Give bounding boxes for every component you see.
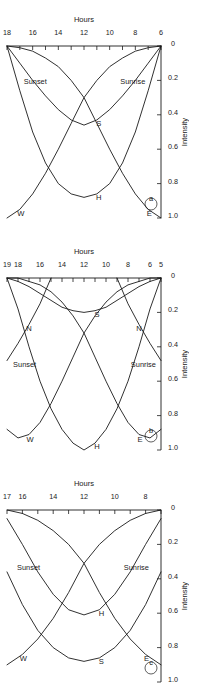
x-tick-label: 12 xyxy=(80,260,88,269)
x-tick-label: 8 xyxy=(133,28,137,37)
y-tick-label: 0.4 xyxy=(168,572,178,581)
annotation-sunrise: Sunrise xyxy=(131,360,156,369)
x-tick-label: 16 xyxy=(18,492,26,501)
x-tick-label: 10 xyxy=(106,28,114,37)
curve-label-S: S xyxy=(99,657,104,666)
annotation-sunset: Sunset xyxy=(13,360,36,369)
x-tick-label: 6 xyxy=(159,28,163,37)
y-tick-label: 0.2 xyxy=(168,73,178,82)
annotation-sunset: Sunset xyxy=(24,77,47,86)
axis-lines xyxy=(7,510,161,682)
panel-label-b: b xyxy=(149,426,153,435)
panel-label-a: a xyxy=(149,194,154,203)
y-tick-label: 1.0 xyxy=(168,675,178,684)
x-axis-title: Hours xyxy=(74,15,94,24)
annotation-sunset: Sunset xyxy=(17,563,40,572)
figure-root: 8101214161700.20.40.60.81.0HoursIntensit… xyxy=(0,0,207,696)
y-axis-title: Intensity xyxy=(180,582,189,610)
curve-label-H: H xyxy=(96,193,101,202)
curve-label-E: E xyxy=(147,209,152,218)
y-tick-label: 0.8 xyxy=(168,641,178,650)
curve-label-E: E xyxy=(137,435,142,444)
chart-panel-c: 8101214161700.20.40.60.81.0HoursIntensit… xyxy=(0,464,207,696)
curve-label-W: W xyxy=(17,209,25,218)
y-tick-label: 0 xyxy=(171,39,175,48)
x-tick-label: 17 xyxy=(3,492,11,501)
curve-label-N: N xyxy=(26,324,31,333)
y-tick-label: 1.0 xyxy=(168,443,178,452)
y-tick-label: 0.8 xyxy=(168,409,178,418)
y-axis-title: Intensity xyxy=(180,118,189,146)
x-tick-label: 12 xyxy=(80,28,88,37)
curve-H xyxy=(7,46,161,197)
y-tick-label: 0.4 xyxy=(168,340,178,349)
chart-panel-b: 56810121416181900.20.40.60.81.0HoursInte… xyxy=(0,232,207,464)
panel-label-c: c xyxy=(149,658,153,667)
x-tick-label: 16 xyxy=(29,28,37,37)
curve-label-W: W xyxy=(26,435,34,444)
curve-E xyxy=(7,510,161,665)
y-tick-label: 0.6 xyxy=(168,606,178,615)
curve-label-N: N xyxy=(136,324,141,333)
x-tick-label: 8 xyxy=(126,260,130,269)
annotation-sunrise: Sunrise xyxy=(124,563,149,572)
y-tick-label: 0.6 xyxy=(168,142,178,151)
curve-label-W: W xyxy=(20,654,28,663)
x-tick-label: 10 xyxy=(102,260,110,269)
x-tick-label: 18 xyxy=(14,260,22,269)
y-axis-title: Intensity xyxy=(180,350,189,378)
three-panel-figure: 8101214161700.20.40.60.81.0HoursIntensit… xyxy=(0,0,207,696)
y-tick-label: 0 xyxy=(171,271,175,280)
x-tick-label: 19 xyxy=(3,260,11,269)
y-tick-label: 0.8 xyxy=(168,177,178,186)
curve-label-S: S xyxy=(94,310,99,319)
x-tick-label: 14 xyxy=(49,492,57,501)
y-tick-label: 1.0 xyxy=(168,211,178,220)
y-tick-label: 0.2 xyxy=(168,305,178,314)
curve-S xyxy=(7,572,161,661)
y-tick-label: 0.4 xyxy=(168,108,178,117)
curve-S xyxy=(7,278,161,312)
x-tick-label: 14 xyxy=(58,260,66,269)
x-tick-label: 6 xyxy=(148,260,152,269)
axis-lines xyxy=(7,46,161,218)
y-tick-label: 0 xyxy=(171,503,175,512)
curve-E xyxy=(7,278,161,438)
curve-W xyxy=(7,278,161,438)
curve-E xyxy=(7,46,161,218)
chart-panel-a: 68101214161800.20.40.60.81.0HoursIntensi… xyxy=(0,0,207,232)
x-tick-label: 5 xyxy=(159,260,163,269)
x-tick-label: 18 xyxy=(3,28,11,37)
x-axis-title: Hours xyxy=(74,479,94,488)
curve-label-H: H xyxy=(94,442,99,451)
curve-label-S: S xyxy=(96,119,101,128)
x-tick-label: 8 xyxy=(144,492,148,501)
x-tick-label: 12 xyxy=(80,492,88,501)
y-tick-label: 0.2 xyxy=(168,537,178,546)
curve-label-H: H xyxy=(99,609,104,618)
annotation-sunrise: Sunrise xyxy=(120,77,145,86)
curve-W xyxy=(7,46,161,218)
curve-W xyxy=(7,510,161,665)
y-tick-label: 0.6 xyxy=(168,374,178,383)
x-tick-label: 14 xyxy=(54,28,62,37)
x-axis-title: Hours xyxy=(74,247,94,256)
x-tick-label: 10 xyxy=(111,492,119,501)
x-tick-label: 16 xyxy=(36,260,44,269)
